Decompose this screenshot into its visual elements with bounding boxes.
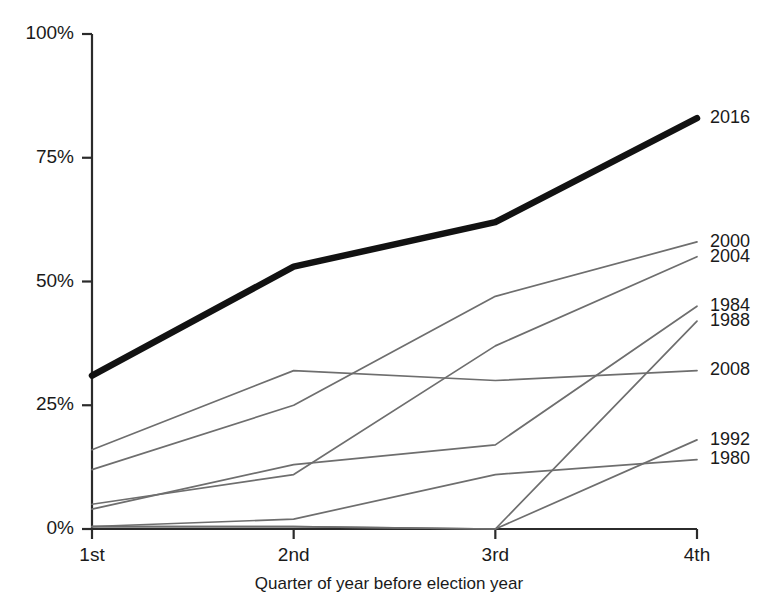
y-tick-label: 25%	[36, 393, 74, 414]
series-label-2016: 2016	[710, 107, 750, 127]
y-axis-tick-labels: 0%25%50%75%100%	[25, 22, 74, 538]
series-line-1992	[92, 440, 697, 529]
x-tick-label: 2nd	[278, 544, 310, 565]
series-line-1980	[92, 460, 697, 527]
series-label-1992: 1992	[710, 429, 750, 449]
series-label-2004: 2004	[710, 246, 750, 266]
series-label-2008: 2008	[710, 359, 750, 379]
x-tick-label: 1st	[79, 544, 105, 565]
series-line-2016	[92, 118, 697, 375]
line-chart: 0%25%50%75%100% 1st2nd3rd4th 20162000200…	[0, 0, 766, 605]
y-tick-label: 75%	[36, 146, 74, 167]
series-label-1988: 1988	[710, 310, 750, 330]
x-tick-label: 3rd	[482, 544, 509, 565]
series-line-1984	[92, 306, 697, 509]
x-axis-title: Quarter of year before election year	[255, 574, 524, 593]
y-tick-label: 100%	[25, 22, 74, 43]
axis-ticks	[82, 34, 697, 539]
data-series-lines	[92, 118, 697, 529]
x-tick-label: 4th	[684, 544, 710, 565]
x-axis-tick-labels: 1st2nd3rd4th	[79, 544, 710, 565]
chart-container: 0%25%50%75%100% 1st2nd3rd4th 20162000200…	[0, 0, 766, 605]
series-label-1980: 1980	[710, 448, 750, 468]
y-tick-label: 0%	[47, 517, 75, 538]
series-end-labels: 20162000200419841988200819921980	[710, 107, 750, 469]
series-line-2000	[92, 242, 697, 470]
series-line-1988	[92, 321, 697, 529]
y-tick-label: 50%	[36, 270, 74, 291]
